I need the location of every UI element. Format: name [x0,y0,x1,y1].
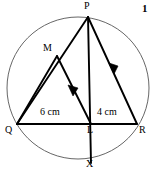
vertex-label-R: R [139,125,146,135]
geometry-canvas [0,0,159,173]
vertex-label-P: P [84,1,90,11]
geometry-figure: P M Q L R X 6 cm 4 cm 1 [0,0,159,173]
vertex-label-L: L [87,125,93,135]
measurement-label-QL: 6 cm [40,107,60,117]
vertex-label-Q: Q [5,125,12,135]
parallel-arrow-pr-icon [109,63,118,74]
vertex-label-X: X [86,159,93,169]
vertex-label-M: M [43,43,52,53]
chord-PX-line [88,17,91,163]
figure-number-label: 1 [142,3,148,14]
measurement-label-LR: 4 cm [97,107,117,117]
